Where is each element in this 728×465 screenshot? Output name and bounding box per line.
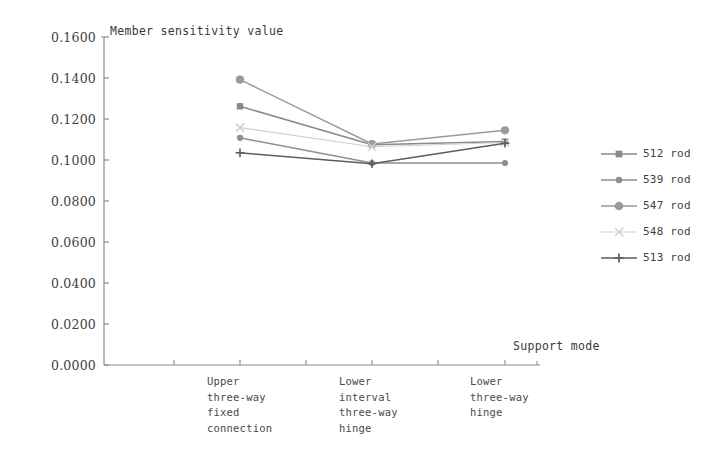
legend-label: 548 rod: [643, 225, 691, 238]
legend-marker-512-rod: [600, 147, 638, 161]
cat1-line0: Lower: [339, 374, 398, 390]
legend-swatch-539-rod: [600, 172, 638, 186]
legend-marker-547-rod: [600, 199, 638, 213]
legend-item-1[interactable]: 539 rod: [600, 166, 724, 192]
legend-swatch-513-rod: [600, 250, 638, 264]
axis-lines: [101, 37, 540, 365]
cat2-line1: three-way: [470, 390, 529, 406]
legend-item-2[interactable]: 547 rod: [600, 192, 724, 218]
legend-marker-513-rod: [600, 251, 638, 265]
cat1-line2: three-way: [339, 405, 398, 421]
y-axis-ticks: [104, 37, 109, 365]
legend-label: 547 rod: [643, 199, 691, 212]
legend-swatch-512-rod: [600, 146, 638, 160]
data-series-group: [236, 76, 510, 168]
legend-item-3[interactable]: 548 rod: [600, 218, 724, 244]
x-axis-ticks: [174, 360, 505, 365]
chart-legend: 512 rod 539 rod 547 rod 548 rod 513 rod: [600, 140, 724, 270]
cat2-line2: hinge: [470, 405, 529, 421]
cat0-line1: three-way: [207, 390, 272, 406]
series-547-rod: [236, 76, 509, 149]
legend-swatch-547-rod: [600, 198, 638, 212]
legend-item-4[interactable]: 513 rod: [600, 244, 724, 270]
cat2-line0: Lower: [470, 374, 529, 390]
legend-label: 539 rod: [643, 173, 691, 186]
legend-label: 513 rod: [643, 251, 691, 264]
cat0-line2: fixed: [207, 405, 272, 421]
legend-marker-539-rod: [600, 173, 638, 187]
cat0-line3: connection: [207, 421, 272, 437]
legend-label: 512 rod: [643, 147, 691, 160]
x-axis-category-label-1: Lower interval three-way hinge: [339, 374, 398, 436]
chart-container: 0.1600 0.1400 0.1200 0.1000 0.0800 0.060…: [0, 0, 728, 465]
legend-item-0[interactable]: 512 rod: [600, 140, 724, 166]
cat0-line0: Upper: [207, 374, 272, 390]
legend-swatch-548-rod: [600, 224, 638, 238]
cat1-line3: hinge: [339, 421, 398, 437]
legend-marker-548-rod: [600, 225, 638, 239]
series-548-rod: [236, 124, 509, 151]
x-axis-category-label-0: Upper three-way fixed connection: [207, 374, 272, 436]
cat1-line1: interval: [339, 390, 398, 406]
x-axis-category-label-2: Lower three-way hinge: [470, 374, 529, 421]
